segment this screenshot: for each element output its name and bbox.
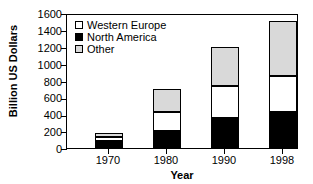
- x-axis-tick-label: 1980: [140, 155, 192, 166]
- bar-1970: [95, 133, 123, 148]
- stacked-bar-chart: Billion US Dollars 020040060080010001200…: [0, 0, 313, 184]
- y-axis-tick: [61, 48, 67, 49]
- bar-segment-other: [211, 47, 239, 86]
- x-axis-title: Year: [66, 169, 298, 181]
- x-axis-tick-label: 1998: [256, 155, 308, 166]
- y-axis-tick-label: 0: [22, 144, 62, 154]
- y-axis-tick: [61, 149, 67, 150]
- bar-segment-other: [269, 21, 297, 75]
- y-axis-tick: [61, 14, 67, 15]
- y-axis-tick: [61, 99, 67, 100]
- y-axis-tick: [61, 116, 67, 117]
- legend-label: Other: [87, 44, 115, 55]
- legend-swatch-other-icon: [75, 45, 83, 53]
- bar-segment-north: [211, 118, 239, 148]
- bar-segment-west: [269, 76, 297, 112]
- y-axis-tick: [61, 82, 67, 83]
- y-axis-tick: [61, 65, 67, 66]
- legend-label: North America: [87, 32, 157, 43]
- y-axis-tick-label: 1400: [22, 26, 62, 36]
- bar-segment-other: [153, 89, 181, 112]
- bar-1990: [211, 47, 239, 148]
- legend-item-west: Western Europe: [75, 19, 195, 31]
- y-axis-tick-label: 1600: [22, 9, 62, 19]
- y-axis-tick-label: 1200: [22, 43, 62, 53]
- y-axis-tick-label: 400: [22, 110, 62, 120]
- bar-segment-north: [153, 131, 181, 148]
- legend-item-north: North America: [75, 31, 195, 43]
- chart-legend: Western EuropeNorth AmericaOther: [75, 19, 195, 55]
- legend-swatch-west-icon: [75, 21, 83, 29]
- plot-area: Western EuropeNorth AmericaOther: [66, 14, 298, 149]
- bar-segment-west: [153, 112, 181, 131]
- y-axis-tick-label: 1000: [22, 60, 62, 70]
- bar-1998: [269, 21, 297, 148]
- bar-segment-west: [95, 137, 123, 141]
- y-axis-tick: [61, 31, 67, 32]
- legend-swatch-north-icon: [75, 33, 83, 41]
- legend-item-other: Other: [75, 43, 195, 55]
- legend-label: Western Europe: [87, 20, 166, 31]
- bar-segment-north: [95, 141, 123, 148]
- y-axis-tick: [61, 132, 67, 133]
- y-axis-tick-labels: 02004006008001000120014001600: [18, 14, 62, 149]
- y-axis-tick-label: 200: [22, 127, 62, 137]
- bar-segment-west: [211, 86, 239, 118]
- x-axis-tick-label: 1970: [82, 155, 134, 166]
- x-axis-tick-label: 1990: [198, 155, 250, 166]
- bar-segment-other: [95, 133, 123, 138]
- y-axis-tick-label: 800: [22, 77, 62, 87]
- y-axis-tick-label: 600: [22, 93, 62, 103]
- bar-segment-north: [269, 112, 297, 148]
- bar-1980: [153, 89, 181, 148]
